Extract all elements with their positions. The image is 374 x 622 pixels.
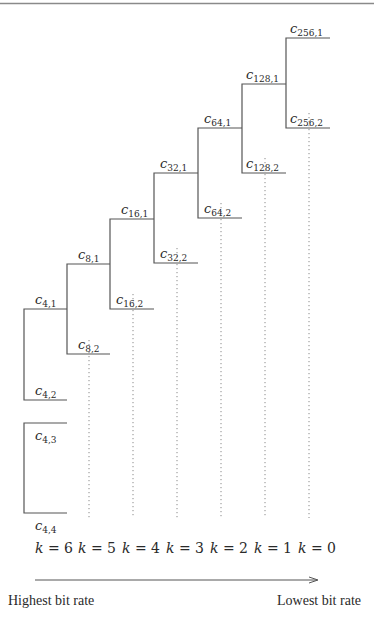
level-k5: k = 5 [78, 540, 116, 556]
lowest-bit-rate-label: Lowest bit rate [277, 593, 361, 608]
label-c256-2: c256,2 [290, 111, 323, 128]
level-k1: k = 1 [254, 540, 292, 556]
level-k6: k = 6 [35, 540, 73, 556]
bit-rate-arrow [35, 577, 318, 583]
label-c128-2: c128,2 [246, 156, 279, 173]
label-c16-2: c16,2 [116, 292, 143, 309]
label-c32-1: c32,1 [160, 156, 187, 173]
label-c4-2: c4,2 [35, 383, 57, 400]
bit-rate-tree-diagram: c256,1 c256,2 c128,1 c128,2 c64,1 c64,2 … [0, 0, 374, 622]
label-c32-2: c32,2 [160, 246, 187, 263]
label-c4-1: c4,1 [35, 292, 57, 309]
level-labels: k = 6 k = 5 k = 4 k = 3 k = 2 k = 1 k = … [35, 540, 336, 556]
level-k3: k = 3 [166, 540, 204, 556]
label-c64-1: c64,1 [204, 111, 231, 128]
level-k2: k = 2 [210, 540, 248, 556]
label-c8-1: c8,1 [78, 247, 100, 264]
tree-lines [24, 38, 330, 513]
label-c128-1: c128,1 [246, 67, 279, 84]
label-c4-3: c4,3 [35, 428, 57, 445]
bracket-c4-upper [24, 309, 67, 400]
highest-bit-rate-label: Highest bit rate [8, 593, 94, 608]
label-c4-4: c4,4 [35, 518, 57, 535]
label-c64-2: c64,2 [204, 201, 231, 218]
label-c16-1: c16,1 [121, 202, 148, 219]
label-c8-2: c8,2 [78, 337, 100, 354]
level-k4: k = 4 [122, 540, 160, 556]
node-labels: c256,1 c256,2 c128,1 c128,2 c64,1 c64,2 … [35, 21, 323, 535]
dotted-guides [89, 113, 309, 518]
label-c256-1: c256,1 [290, 21, 323, 38]
level-k0: k = 0 [298, 540, 336, 556]
